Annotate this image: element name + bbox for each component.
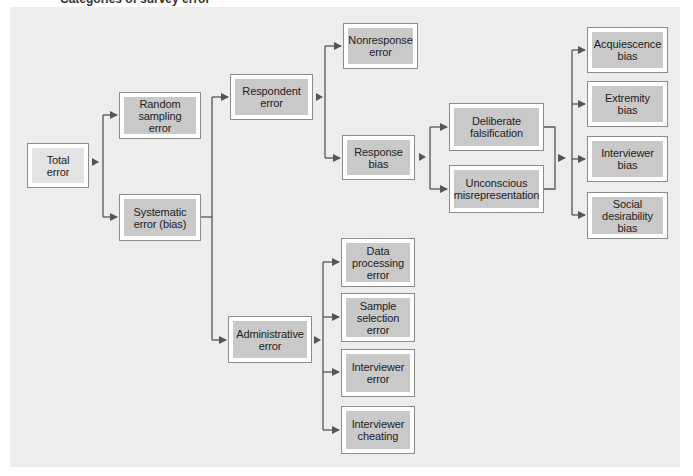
node-deliberate-falsification: Deliberate falsification — [449, 103, 544, 151]
node-interviewer-cheating: Interviewer cheating — [341, 406, 415, 454]
node-administrative-error: Administrative error — [228, 316, 312, 363]
node-label: Unconscious misrepresentation — [454, 177, 540, 201]
node-social-desirability-bias: Social desirability bias — [587, 192, 668, 239]
node-acquiescence-bias: Acquiescence bias — [587, 27, 668, 73]
node-sample-selection-error: Sample selection error — [341, 293, 415, 342]
node-interviewer-bias: Interviewer bias — [587, 136, 668, 182]
node-respondent-error: Respondent error — [230, 74, 313, 120]
node-label: Sample selection error — [357, 300, 400, 336]
node-label: Social desirability bias — [602, 198, 653, 234]
diagram-panel — [10, 7, 680, 467]
node-label: Data processing error — [352, 245, 404, 281]
node-data-processing-error: Data processing error — [341, 238, 415, 287]
figure-caption-partial: Categories of survey error — [60, 0, 210, 6]
node-label: Extremity bias — [605, 92, 650, 116]
node-label: Random sampling error — [138, 98, 181, 134]
node-label: Acquiescence bias — [594, 38, 661, 62]
node-label: Response bias — [354, 146, 403, 170]
node-label: Systematic error (bias) — [134, 206, 187, 230]
node-label: Respondent error — [242, 85, 300, 109]
node-label: Interviewer cheating — [352, 418, 405, 442]
node-total-error: Total error — [27, 143, 89, 188]
node-extremity-bias: Extremity bias — [587, 81, 668, 127]
node-label: Nonresponse error — [348, 34, 412, 58]
node-label: Interviewer error — [352, 361, 405, 385]
node-systematic-error: Systematic error (bias) — [119, 194, 201, 241]
node-random-sampling-error: Random sampling error — [119, 92, 201, 139]
node-response-bias: Response bias — [342, 135, 415, 180]
node-interviewer-error: Interviewer error — [341, 349, 415, 397]
node-unconscious-misrepresentation: Unconscious misrepresentation — [449, 165, 544, 213]
node-label: Interviewer bias — [601, 147, 654, 171]
node-label: Administrative error — [236, 328, 304, 352]
node-label: Deliberate falsification — [470, 115, 523, 139]
node-nonresponse-error: Nonresponse error — [343, 23, 418, 69]
node-label: Total error — [47, 154, 70, 178]
